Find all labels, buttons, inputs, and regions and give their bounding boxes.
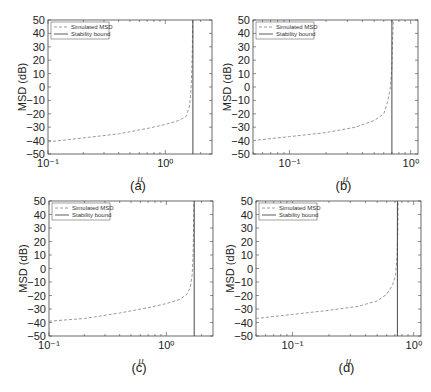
legend-label-simulated: Simulated MSD xyxy=(276,24,318,30)
subplot-c: 50403020100−10−20−30−40−5010⁻¹10⁰MSD (dB… xyxy=(0,196,215,392)
y-axis-label: MSD (dB) xyxy=(17,244,29,292)
axes-frame xyxy=(48,20,212,154)
legend-label-simulated: Simulated MSD xyxy=(279,205,321,211)
y-tick-label: −30 xyxy=(234,303,253,315)
y-axis-label: MSD (dB) xyxy=(16,63,28,111)
y-axis-label: MSD (dB) xyxy=(221,63,233,111)
y-tick-label: −10 xyxy=(231,94,250,106)
subplot-b-canvas: 50403020100−10−20−30−40−5010⁻¹10⁰MSD (dB… xyxy=(215,0,431,196)
subplot-caption: (b) xyxy=(336,178,352,193)
subplot-d-canvas: 50403020100−10−20−30−40−5010⁻¹10⁰MSD (dB… xyxy=(215,196,431,392)
y-tick-label: 40 xyxy=(241,209,253,221)
y-tick-label: 40 xyxy=(33,27,45,39)
x-tick-label: 10⁻¹ xyxy=(38,339,60,351)
y-tick-label: 30 xyxy=(238,41,250,53)
y-tick-label: −20 xyxy=(26,108,45,120)
y-tick-label: −30 xyxy=(231,121,250,133)
subplot-d: 50403020100−10−20−30−40−5010⁻¹10⁰MSD (dB… xyxy=(215,196,431,392)
y-tick-label: −10 xyxy=(27,276,46,288)
y-tick-label: 0 xyxy=(247,263,253,275)
x-tick-label: 10⁰ xyxy=(157,157,174,169)
y-tick-label: 20 xyxy=(33,54,45,66)
x-tick-label: 10⁰ xyxy=(158,339,175,351)
legend-label-bound: Stability bound xyxy=(279,212,318,218)
x-tick-label: 10⁰ xyxy=(403,157,420,169)
y-axis-label: MSD (dB) xyxy=(224,244,236,292)
y-tick-label: 40 xyxy=(238,27,250,39)
x-tick-label: 10⁰ xyxy=(406,339,423,351)
y-tick-label: −30 xyxy=(26,121,45,133)
y-tick-label: 50 xyxy=(33,14,45,26)
legend-label-bound: Stability bound xyxy=(72,212,111,218)
y-tick-label: −50 xyxy=(231,148,250,160)
y-tick-label: 10 xyxy=(33,68,45,80)
y-tick-label: 40 xyxy=(34,209,46,221)
axes-frame xyxy=(49,201,213,336)
y-tick-label: 0 xyxy=(39,81,45,93)
y-tick-label: −40 xyxy=(27,317,46,329)
y-tick-label: −40 xyxy=(231,135,250,147)
y-tick-label: 30 xyxy=(34,222,46,234)
subplot-caption: (c) xyxy=(131,360,146,375)
y-tick-label: 30 xyxy=(241,222,253,234)
y-tick-label: −20 xyxy=(231,108,250,120)
subplot-a: 50403020100−10−20−30−40−5010⁻¹10⁰MSD (dB… xyxy=(0,0,215,196)
y-tick-label: 50 xyxy=(241,196,253,207)
subplot-b: 50403020100−10−20−30−40−5010⁻¹10⁰MSD (dB… xyxy=(215,0,431,196)
y-tick-label: 50 xyxy=(34,196,46,207)
y-tick-label: −10 xyxy=(234,276,253,288)
x-tick-label: 10⁻¹ xyxy=(37,157,59,169)
subplot-caption: (a) xyxy=(130,178,146,193)
y-tick-label: −40 xyxy=(26,135,45,147)
subplot-a-canvas: 50403020100−10−20−30−40−5010⁻¹10⁰MSD (dB… xyxy=(0,0,215,196)
x-tick-label: 10⁻¹ xyxy=(279,157,301,169)
y-tick-label: 50 xyxy=(238,14,250,26)
y-tick-label: −10 xyxy=(26,94,45,106)
y-tick-label: 20 xyxy=(34,236,46,248)
legend-label-simulated: Simulated MSD xyxy=(72,205,114,211)
y-tick-label: −20 xyxy=(27,290,46,302)
y-tick-label: 0 xyxy=(40,263,46,275)
y-tick-label: 10 xyxy=(241,249,253,261)
legend-label-bound: Stability bound xyxy=(276,31,315,37)
subplot-c-canvas: 50403020100−10−20−30−40−5010⁻¹10⁰MSD (dB… xyxy=(0,196,215,392)
y-tick-label: 10 xyxy=(34,249,46,261)
y-tick-label: 30 xyxy=(33,41,45,53)
y-tick-label: −50 xyxy=(234,330,253,342)
y-tick-label: 20 xyxy=(241,236,253,248)
y-tick-label: −40 xyxy=(234,317,253,329)
y-tick-label: 10 xyxy=(238,68,250,80)
legend-label-simulated: Simulated MSD xyxy=(71,24,113,30)
x-tick-label: 10⁻¹ xyxy=(282,339,304,351)
y-tick-label: −20 xyxy=(234,290,253,302)
y-tick-label: −30 xyxy=(27,303,46,315)
legend-label-bound: Stability bound xyxy=(71,31,110,37)
y-tick-label: 0 xyxy=(244,81,250,93)
axes-frame xyxy=(253,20,418,154)
subplot-caption: (d) xyxy=(339,360,355,375)
y-tick-label: 20 xyxy=(238,54,250,66)
